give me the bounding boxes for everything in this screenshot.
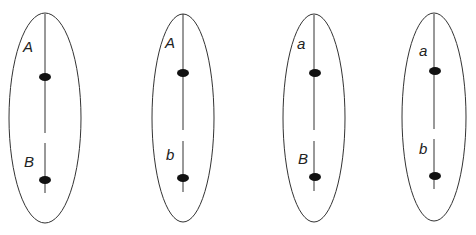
allele-label-top: A [164, 34, 175, 51]
allele-label-top: A [22, 38, 33, 55]
allele-label-top: a [297, 35, 305, 52]
locus-bottom [39, 176, 51, 184]
allele-label-bottom: B [298, 150, 308, 167]
locus-top [429, 67, 441, 75]
allele-label-bottom: B [24, 153, 34, 170]
cell-2: A b [152, 14, 214, 222]
locus-top [309, 69, 321, 77]
locus-bottom [429, 172, 441, 180]
allele-label-bottom: b [166, 146, 174, 163]
locus-bottom [309, 173, 321, 181]
allele-label-top: a [419, 42, 427, 59]
locus-top [177, 69, 189, 77]
cell-1: A B [9, 13, 81, 223]
chromosome-diagram: A B A b a B a b [0, 0, 476, 235]
locus-bottom [177, 174, 189, 182]
cell-4: a b [402, 13, 466, 221]
cell-3: a B [283, 14, 345, 222]
allele-label-bottom: b [419, 140, 427, 157]
locus-top [39, 73, 51, 81]
